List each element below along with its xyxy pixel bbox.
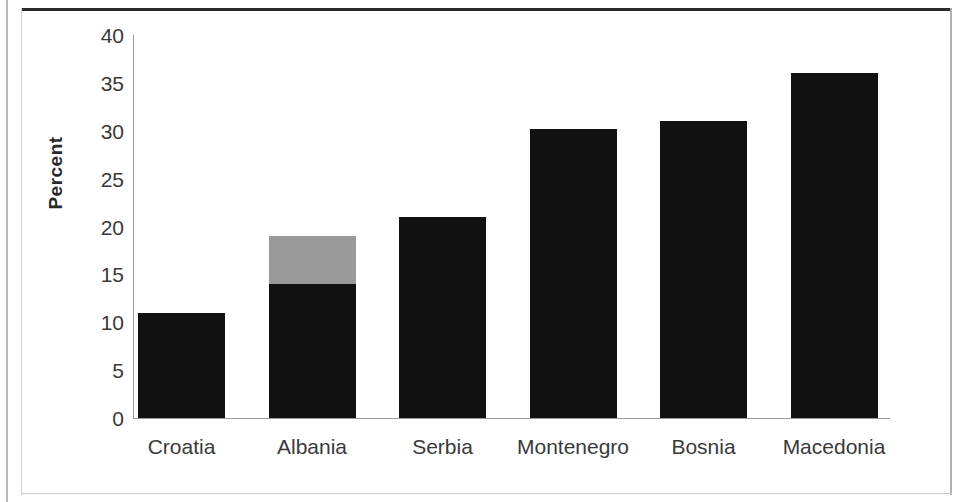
page-border-right xyxy=(950,8,952,495)
y-axis-tick-label: 30 xyxy=(58,120,124,141)
bar-segment xyxy=(138,313,225,418)
y-axis-tick-label: 35 xyxy=(58,72,124,93)
y-axis-tick-label: 10 xyxy=(58,312,124,333)
bar-segment xyxy=(530,129,617,418)
y-axis-tick-label: 0 xyxy=(58,408,124,429)
plot-area xyxy=(133,35,890,418)
x-axis-tick-label: Macedonia xyxy=(744,436,924,457)
y-axis-tick-label: 15 xyxy=(58,264,124,285)
bar xyxy=(269,236,356,418)
page-border-left-inner xyxy=(21,8,22,495)
bar xyxy=(660,121,747,418)
y-axis-tick-label: 25 xyxy=(58,168,124,189)
x-axis-line xyxy=(133,418,890,419)
page-border-bottom xyxy=(22,493,952,494)
page-border-left-outer xyxy=(6,0,8,502)
bar xyxy=(399,217,486,418)
bar-segment xyxy=(791,73,878,418)
y-axis-tick-label: 20 xyxy=(58,216,124,237)
bar xyxy=(138,313,225,418)
bar-segment xyxy=(660,121,747,418)
bar-segment xyxy=(399,217,486,418)
page-border-top xyxy=(22,8,952,11)
y-axis-tick-label: 5 xyxy=(58,360,124,381)
bar-segment xyxy=(269,236,356,284)
y-axis-tick-labels: 0510152025303540 xyxy=(58,0,124,502)
bar xyxy=(791,73,878,418)
y-axis-tick-label: 40 xyxy=(58,25,124,46)
chart-page: Percent 0510152025303540 CroatiaAlbaniaS… xyxy=(0,0,963,502)
bar xyxy=(530,129,617,418)
bar-segment xyxy=(269,284,356,418)
x-axis-tick-labels: CroatiaAlbaniaSerbiaMontenegroBosniaMace… xyxy=(133,436,890,466)
